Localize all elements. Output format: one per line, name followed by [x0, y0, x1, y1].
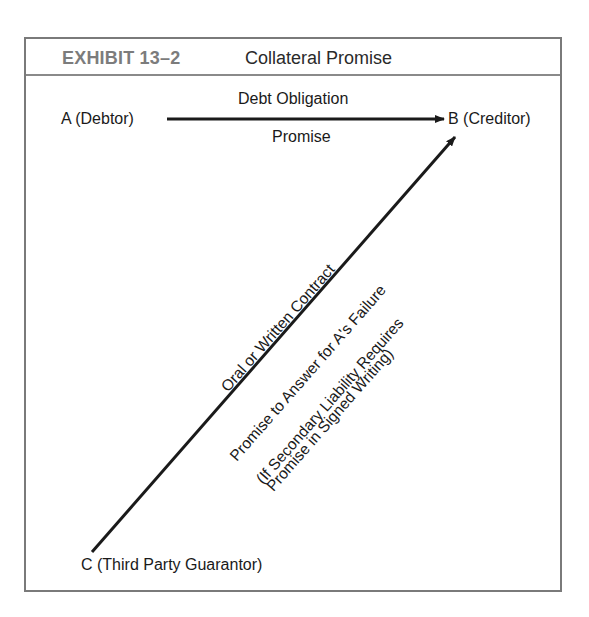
promise-label: Promise	[272, 128, 331, 146]
party-b-label: B (Creditor)	[448, 110, 531, 128]
party-c-label: C (Third Party Guarantor)	[81, 556, 262, 574]
party-a-label: A (Debtor)	[61, 110, 134, 128]
debt-obligation-label: Debt Obligation	[238, 90, 348, 108]
